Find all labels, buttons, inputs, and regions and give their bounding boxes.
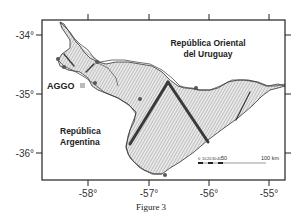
point — [95, 60, 99, 64]
point — [163, 173, 167, 177]
scale-segment — [208, 162, 213, 164]
uruguay-label-line1: República Oriental — [170, 38, 245, 48]
uruguay-label-line2: del Uruguay — [183, 49, 232, 59]
x-tick-label: -55° — [260, 188, 278, 199]
scale-bar: 0 10 20 30 40 50 100 km — [198, 155, 279, 164]
point — [194, 86, 198, 90]
y-tick-label: -36° — [16, 148, 34, 159]
point — [138, 97, 142, 101]
point — [62, 65, 66, 69]
x-tick-label: -56° — [200, 188, 218, 199]
argentina-label-line1: República — [60, 126, 101, 136]
x-tick-label: -58° — [79, 188, 97, 199]
aggo-label: AGGO — [47, 81, 75, 91]
y-tick-label: -35° — [16, 89, 34, 100]
scale-label-100km: 100 km — [261, 155, 279, 161]
scale-segment — [218, 162, 223, 164]
y-tick-label: -34° — [16, 30, 34, 41]
aggo-marker — [80, 83, 85, 88]
point — [56, 57, 60, 61]
figure-caption: Figure 3 — [0, 202, 302, 212]
argentina-label-line2: Argentina — [60, 137, 100, 147]
map-figure: AGGO República Oriental del Uruguay Repú… — [0, 0, 302, 219]
point — [93, 81, 97, 85]
scale-label-50: 50 — [221, 155, 227, 161]
scale-segment — [198, 162, 203, 164]
x-tick-label: -57° — [140, 188, 158, 199]
scale-label-0: 0 — [198, 156, 201, 161]
